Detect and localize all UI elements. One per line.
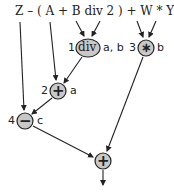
sub-order-label: 4 [8, 114, 15, 127]
edge-sub-to-add2 [33, 126, 93, 157]
div-result-label: a, b [103, 41, 124, 54]
edge-2-to-div [92, 21, 100, 36]
mul-order-label: 3 [129, 41, 136, 54]
edge-z-to-sub [20, 22, 24, 110]
edge-add1-to-sub [32, 98, 52, 114]
add1-result-label: a [70, 84, 77, 97]
sub-result-label: c [37, 114, 43, 127]
edge-w-to-mul [137, 21, 143, 37]
edge-a-to-add1 [50, 22, 56, 80]
edge-y-to-mul [149, 21, 156, 37]
add1-operator: + [52, 82, 65, 100]
add1-order-label: 2 [41, 84, 48, 97]
edge-b-to-div [76, 21, 84, 36]
div-operator: div [78, 40, 96, 54]
mul-result-label: b [157, 41, 164, 54]
div-order-label: 1 [68, 41, 75, 54]
edge-mul-to-add2 [107, 57, 143, 151]
add2-operator: + [97, 152, 110, 170]
mul-operator: ∗ [141, 40, 152, 55]
expression-tree [0, 0, 174, 193]
edge-div-to-add1 [64, 57, 82, 83]
sub-operator: − [19, 112, 32, 130]
